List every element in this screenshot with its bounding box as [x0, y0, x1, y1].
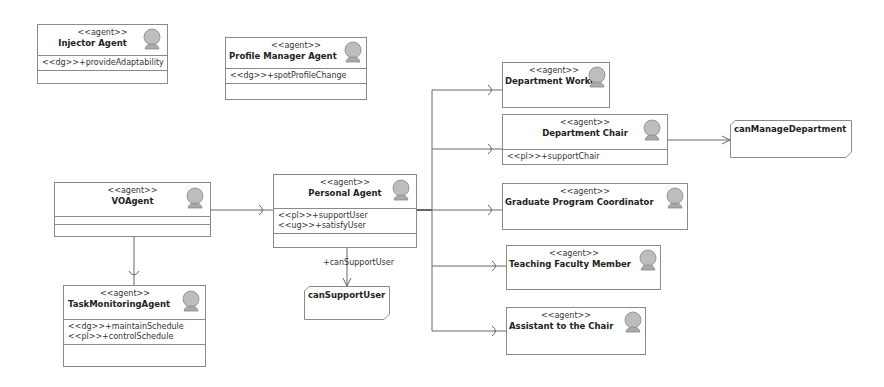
empty-compartment [38, 70, 167, 78]
agent-assistant-chair[interactable]: <<agent>> Assistant to the Chair [506, 307, 646, 355]
member-list: <<pl>>+supportUser <<ug>>+satisfyUser [274, 208, 416, 233]
agent-person-icon [342, 41, 364, 63]
agent-person-icon [664, 187, 686, 209]
member-list: <<dg>>+provideAdaptability [38, 55, 167, 70]
member-list: <<dg>>+maintainSchedule <<pl>>+controlSc… [64, 319, 205, 344]
agent-graduate-coordinator[interactable]: <<agent>> Graduate Program Coordinator [502, 183, 688, 230]
member: <<ug>>+satisfyUser [278, 221, 412, 231]
agent-name: Graduate Program Coordinator [505, 197, 687, 208]
empty-compartment [55, 224, 210, 240]
agent-person-icon [141, 28, 163, 50]
agent-department-chair[interactable]: <<agent>> Department Chair <<pl>>+suppor… [502, 114, 668, 165]
member: <<dg>>+provideAdaptability [42, 58, 163, 68]
agent-task-monitoring[interactable]: <<agent>> TaskMonitoringAgent <<dg>>+mai… [63, 285, 206, 367]
member-list: <<pl>>+supportChair [503, 149, 667, 164]
agent-person-icon [622, 311, 644, 333]
member: <<pl>>+supportChair [507, 152, 663, 162]
agent-person-icon [390, 179, 412, 201]
agent-personal[interactable]: <<agent>> Personal Agent <<pl>>+supportU… [273, 174, 417, 248]
agent-person-icon [184, 187, 206, 209]
member: <<dg>>+spotProfileChange [230, 71, 362, 81]
agent-department-worker[interactable]: <<agent>> Department Worker [502, 62, 610, 108]
goal-can-support-user[interactable]: canSupportUser [304, 286, 390, 320]
empty-compartment [55, 216, 210, 224]
agent-teaching-faculty[interactable]: <<agent>> Teaching Faculty Member [506, 245, 661, 290]
member: <<pl>>+supportUser [278, 211, 412, 221]
edge-label-can-support-user: +canSupportUser [323, 258, 394, 267]
agent-vo[interactable]: <<agent>> VOAgent [54, 182, 211, 237]
goal-name: canManageDepartment [734, 124, 846, 134]
member: <<pl>>+controlSchedule [68, 332, 201, 342]
member-list: <<dg>>+spotProfileChange [226, 68, 366, 83]
empty-compartment [274, 233, 416, 246]
agent-person-icon [641, 119, 663, 141]
agent-person-icon [180, 290, 202, 312]
goal-name: canSupportUser [308, 290, 385, 300]
agent-profile-manager[interactable]: <<agent>> Profile Manager Agent <<dg>>+s… [225, 37, 367, 100]
agent-injector[interactable]: <<agent>> Injector Agent <<dg>>+provideA… [37, 24, 168, 84]
member: <<dg>>+maintainSchedule [68, 322, 201, 332]
stereotype-label: <<agent>> [505, 187, 687, 197]
agent-person-icon [586, 66, 608, 88]
empty-compartment [226, 83, 366, 91]
goal-can-manage-department[interactable]: canManageDepartment [730, 120, 852, 158]
agent-person-icon [637, 249, 659, 271]
empty-compartment [64, 344, 205, 365]
